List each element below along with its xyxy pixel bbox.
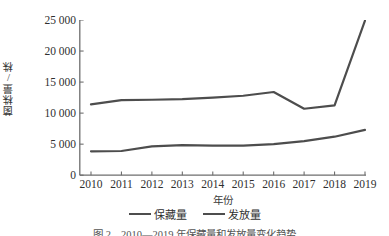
legend-item[interactable]: 保藏量 [129,206,187,222]
legend-line-swatch [129,213,151,215]
chart-legend: 保藏量发放量 [0,206,389,222]
y-axis-tick-label: 15 000 [20,76,76,88]
series-line-1 [91,21,365,109]
plot-area [79,20,366,176]
legend-item-label: 发放量 [228,206,261,222]
legend-item-label: 保藏量 [154,206,187,222]
series-line-2 [91,130,365,151]
y-axis-tick-label: 25 000 [20,14,76,26]
y-axis-tick-label: 10 000 [20,107,76,119]
legend-item[interactable]: 发放量 [203,206,261,222]
x-axis-tick-label: 2019 [345,178,385,190]
data-series-layer [91,21,365,152]
y-axis-tick-labels: 05 00010 00015 00020 00025 000 [18,0,76,236]
y-axis-tick-label: 5 000 [20,138,76,150]
y-axis-tick-label: 0 [20,169,76,181]
x-axis-title: 年份 [79,192,366,207]
figure-caption: 图 2 2010—2019 年保藏量和发放量变化趋势 [0,226,389,236]
y-axis-tick-label: 20 000 [20,45,76,57]
chart-figure: 菌株量/株 05 00010 00015 00020 00025 000 201… [0,0,389,236]
y-axis-title-text: 菌株量/株 [3,61,14,116]
plot-svg [79,20,366,176]
legend-line-swatch [203,213,225,215]
y-axis-title: 菌株量/株 [0,0,18,176]
